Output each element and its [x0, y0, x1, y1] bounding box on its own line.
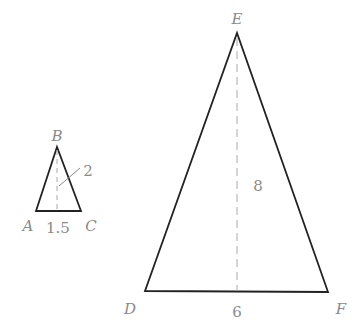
- similar-triangles-diagram: B A C 1.5 2 E D F 6 8: [0, 0, 355, 330]
- height-label-large: 8: [253, 177, 263, 195]
- vertex-label-b: B: [50, 127, 62, 145]
- vertex-label-c: C: [85, 217, 97, 235]
- base-length-label-small: 1.5: [46, 219, 70, 237]
- vertex-label-e: E: [231, 10, 243, 28]
- height-label-small: 2: [83, 162, 93, 180]
- small-triangle-abc: B A C 1.5 2: [21, 127, 98, 237]
- triangle-abc-outline: [36, 147, 81, 211]
- large-triangle-def: E D F 6 8: [123, 10, 347, 321]
- vertex-label-f: F: [335, 300, 347, 318]
- base-length-label-large: 6: [232, 303, 242, 321]
- vertex-label-d: D: [123, 300, 136, 318]
- vertex-label-a: A: [21, 217, 34, 235]
- height-leader-line: [59, 168, 80, 186]
